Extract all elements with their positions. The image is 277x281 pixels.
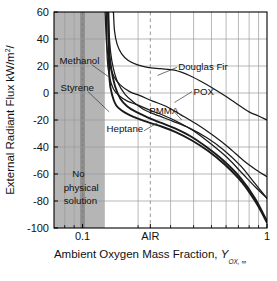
x-tick-label: AIR [141,230,159,242]
y-tick-label: -80 [33,195,49,207]
no-physical-solution-line1: No [72,168,84,179]
styrene-label: Styrene [61,82,94,93]
y-tick-label: -60 [33,168,49,180]
y-tick-label: 40 [37,33,49,45]
chart-figure: 6040200-20-40-60-80-1000.1AIR1External R… [0,0,277,281]
y-tick-label: -100 [27,222,49,234]
pox-label: POX [194,86,215,97]
pmma-label: PMMA [149,105,179,116]
y-tick-label: 60 [37,6,49,18]
y-tick-label: -20 [33,114,49,126]
x-tick-label: 1 [264,230,270,242]
y-tick-label: 20 [37,60,49,72]
douglas-fir-label: Douglas Fir [178,61,228,72]
y-tick-label: 0 [43,87,49,99]
y-tick-label: -40 [33,141,49,153]
heptane-label: Heptane [107,123,144,134]
x-axis-title: Ambient Oxygen Mass Fraction, YOX, ∞ [54,248,246,265]
radiant-flux-chart: 6040200-20-40-60-80-1000.1AIR1External R… [0,0,277,281]
svg-text:External Radiant Flux kW/m2/: External Radiant Flux kW/m2/ [4,44,16,194]
no-physical-solution-line3: solution [64,195,97,206]
x-tick-label: 0.1 [75,230,90,242]
no-physical-solution-line2: physical [64,182,99,193]
y-axis-title: External Radiant Flux kW/m2/ [4,44,16,194]
methanol-label: Methanol [60,55,100,66]
